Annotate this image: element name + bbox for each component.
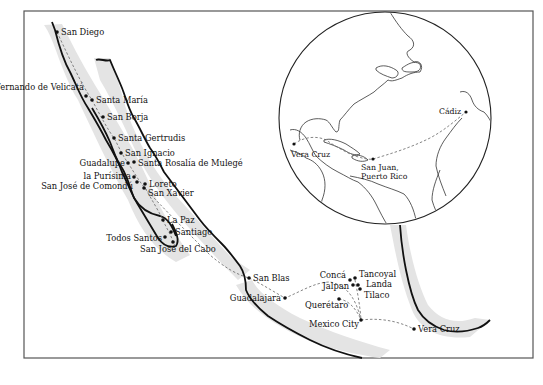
label-san-diego: San Diego — [61, 27, 104, 37]
label-santa-gertrudis: Santa Gertrudis — [118, 133, 185, 143]
label-jalpan: Jalpan — [321, 281, 349, 291]
label-todos-santos: Todos Santos — [106, 233, 162, 243]
label-san-borja: San Borja — [107, 112, 148, 122]
label-queretaro: Querétaro — [305, 300, 348, 310]
label-vera-cruz: Vera Cruz — [417, 324, 460, 334]
label-san-jose-del-cabo: San José del Cabo — [140, 244, 216, 254]
inset-label-san-juan: San Juan, — [361, 163, 399, 172]
label-san-ignacio: San Ignacio — [125, 148, 175, 158]
label-santiago: Santiago — [175, 227, 212, 237]
label-santa-rosalia: Santa Rosalía de Mulegé — [138, 158, 243, 168]
label-san-blas: San Blas — [253, 273, 290, 283]
label-landa: Landa — [366, 279, 392, 289]
label-tancoyal: Tancoyal — [359, 269, 396, 279]
inset-label-puerto-rico: Puerto Rico — [361, 172, 408, 181]
inset-label-vera-cruz: Vera Cruz — [290, 150, 330, 159]
atlantic-inset-globe: Cádiz Vera Cruz San Juan, Puerto Rico — [279, 12, 492, 240]
label-la-paz: La Paz — [167, 215, 195, 225]
label-guadalupe: Guadalupe — [80, 158, 125, 168]
historical-route-map: San Diego San Fernando de Velicatá Santa… — [0, 0, 543, 385]
label-guadalajara: Guadalajara — [230, 293, 281, 303]
label-la-purisima: la Purísima — [83, 171, 131, 181]
label-san-jose-comondu: San José de Comondú — [41, 181, 133, 191]
label-conca: Concá — [320, 270, 346, 280]
label-san-fernando: San Fernando de Velicatá — [0, 82, 84, 92]
label-santa-maria: Santa María — [96, 95, 148, 105]
label-san-xavier: San Xavier — [148, 188, 194, 198]
label-mexico-city: Mexico City — [309, 319, 359, 329]
label-tilaco: Tilaco — [364, 290, 389, 300]
inset-label-cadiz: Cádiz — [439, 107, 461, 116]
